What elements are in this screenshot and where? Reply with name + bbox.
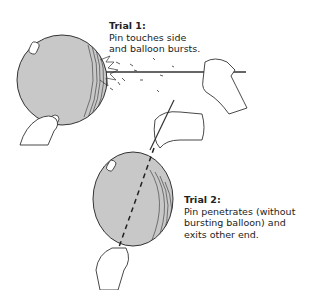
bursting-balloon bbox=[17, 35, 118, 125]
trial2-title: Trial 2: bbox=[184, 194, 295, 206]
trial1-line1: Pin touches side bbox=[109, 32, 186, 43]
pierced-balloon bbox=[93, 148, 173, 250]
hand-top-trial2 bbox=[154, 112, 204, 148]
trial2-line1: Pin penetrates (without bbox=[184, 206, 295, 217]
trial2-line2: bursting balloon) and bbox=[184, 217, 286, 228]
trial1-title: Trial 1: bbox=[109, 20, 200, 32]
trial1-line2: and balloon bursts. bbox=[109, 43, 200, 54]
hand-left-trial1 bbox=[20, 116, 58, 145]
hand-right-trial1 bbox=[203, 59, 247, 114]
trial1-caption: Trial 1: Pin touches side and balloon bu… bbox=[109, 20, 200, 55]
balloon-fragments bbox=[110, 58, 174, 92]
trial2-caption: Trial 2: Pin penetrates (without burstin… bbox=[184, 194, 295, 240]
trial2-line3: exits other end. bbox=[184, 229, 259, 240]
hand-bottom-trial2 bbox=[96, 248, 129, 290]
